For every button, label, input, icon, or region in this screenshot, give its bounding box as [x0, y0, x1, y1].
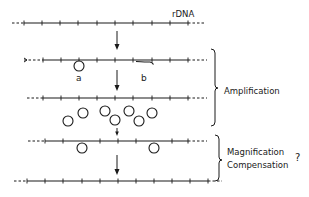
- rdna-circle: [78, 108, 88, 118]
- rdna-row-4: [28, 139, 207, 154]
- extrachromosomal-rdna-circles: [63, 106, 157, 126]
- rdna-label: rDNA: [172, 9, 194, 19]
- magnification-compensation-brace: [215, 135, 222, 181]
- rdna-circle: [147, 108, 157, 118]
- down-arrow-icon: [115, 70, 120, 91]
- down-arrow-icon: [115, 155, 120, 175]
- compensation-label: Compensation: [227, 160, 288, 170]
- rdna-circle: [110, 115, 120, 125]
- rdna-row-2: [24, 58, 207, 72]
- label-b: b: [141, 73, 147, 83]
- reintegrating-circle: [77, 143, 87, 153]
- amplification-label: Amplification: [224, 86, 280, 96]
- rdna-circle: [134, 116, 144, 126]
- down-arrow-icon: [115, 128, 119, 136]
- reintegrating-circle: [149, 143, 159, 153]
- question-mark: ?: [295, 152, 300, 163]
- rdna-row-5: [14, 179, 222, 184]
- rdna-circle: [124, 106, 134, 116]
- down-arrow-icon: [115, 31, 120, 50]
- magnification-label: Magnification: [227, 147, 284, 157]
- rdna-circle: [63, 116, 73, 126]
- rdna-circle: [100, 106, 110, 116]
- rdna-row-3: [27, 96, 207, 101]
- rdna-amplification-diagram: rDNA a b Amplification Magnification Com…: [0, 0, 309, 197]
- amplification-brace: [211, 49, 218, 126]
- onion-skin-replication-b: [136, 62, 154, 65]
- excised-circle-a: [74, 61, 84, 71]
- rdna-row-1: [12, 21, 205, 26]
- label-a: a: [76, 73, 82, 83]
